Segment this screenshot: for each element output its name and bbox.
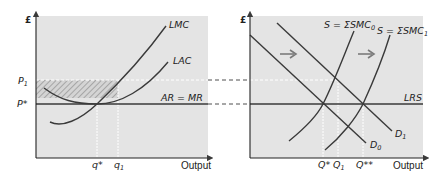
- firm-panel: £ P1 P* q* q1 Output LMC LAC AR = MR: [17, 14, 211, 172]
- pstar-label: P*: [17, 98, 28, 109]
- q1-label: q1: [114, 159, 124, 172]
- x-axis-label: Output: [181, 160, 211, 171]
- y-axis-label: £: [25, 15, 31, 25]
- p1-label: P1: [18, 75, 28, 88]
- ar-mr-label: AR = MR: [160, 92, 203, 103]
- qstar-label: Q*: [318, 159, 330, 170]
- lrs-label: LRS: [404, 92, 422, 103]
- lmc-label: LMC: [169, 19, 189, 30]
- x-axis-label: Output: [393, 160, 423, 171]
- economics-diagram: £ P1 P* q* q1 Output LMC LAC AR = MR: [0, 0, 445, 181]
- qstar-label: q*: [92, 159, 103, 170]
- lac-label: LAC: [173, 55, 192, 66]
- y-axis-label: £: [240, 15, 246, 25]
- q1-label: Q1: [333, 159, 345, 172]
- industry-panel: £ Q* Q1 Q** Output S = ΣSMC0 S = ΣSMC1 L…: [240, 14, 428, 172]
- qstarstar-label: Q**: [356, 159, 373, 170]
